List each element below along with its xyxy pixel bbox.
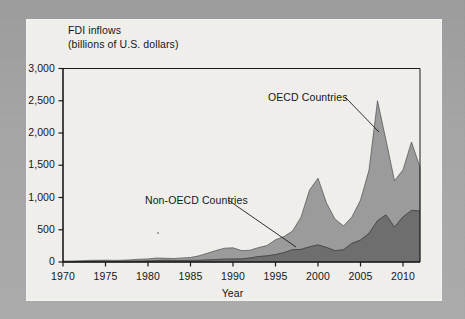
x-axis-tick-label: 1995 [256,270,296,282]
scan-speck [157,232,159,234]
x-axis-tick-label: 2010 [383,270,423,282]
x-axis-tick-label: 2005 [341,270,381,282]
y-axis-tick-label: 1,500 [9,158,55,170]
x-axis-tick-label: 1970 [43,270,83,282]
leader-line-non-oecd [228,200,296,247]
x-axis-title: Year [0,287,465,299]
series-layer [63,101,420,262]
y-axis-tick-label: 2,500 [9,94,55,106]
annotation-non-oecd-countries: Non-OECD Countries [145,194,248,206]
x-axis-tick-label: 1980 [128,270,168,282]
y-axis-tick-label: 3,000 [9,62,55,74]
y-axis-tick-label: 0 [9,255,55,267]
y-axis-tick-label: 1,000 [9,191,55,203]
x-axis-tick-label: 1985 [171,270,211,282]
annotation-oecd-countries: OECD Countries [268,91,348,103]
y-axis-tick-label: 2,000 [9,126,55,138]
y-axis-tick-label: 500 [9,223,55,235]
x-axis-tick-label: 1990 [213,270,253,282]
x-axis-tick-label: 1975 [86,270,126,282]
x-axis-tick-label: 2000 [298,270,338,282]
leader-line-oecd [345,97,379,132]
